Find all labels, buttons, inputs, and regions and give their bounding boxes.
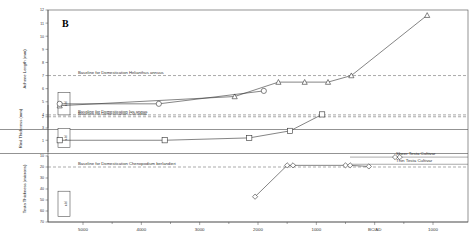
data-point-square bbox=[162, 138, 167, 143]
y-tick-label: 9 bbox=[42, 48, 44, 52]
figure-container: B3456789101112Achene Length (mm)Baseline… bbox=[0, 0, 473, 249]
x-tick-label: 1000 bbox=[311, 227, 321, 232]
data-point-circle bbox=[57, 101, 62, 106]
y-tick-label: 1 bbox=[42, 139, 44, 143]
data-point-square bbox=[57, 138, 62, 143]
x-tick-label: BC/AD bbox=[368, 227, 381, 232]
reference-line-label: Baseline for Domestication Chenopodium b… bbox=[78, 161, 176, 166]
panel-letter: B bbox=[62, 18, 69, 29]
data-point-square bbox=[320, 112, 325, 117]
y-tick-label: 40 bbox=[40, 187, 44, 191]
data-point-triangle bbox=[425, 13, 430, 18]
y-tick-label: 60 bbox=[40, 209, 44, 213]
y-tick-label: 20 bbox=[40, 165, 44, 169]
data-point-circle bbox=[261, 88, 266, 93]
reference-line-label: Baseline for Domestication Cucurbita bbox=[78, 111, 148, 116]
y-tick-label: 8 bbox=[42, 61, 44, 65]
reference-line-label: Thin Testa Cultivar bbox=[396, 158, 433, 163]
series-line bbox=[60, 114, 323, 140]
y-tick-label: 30 bbox=[40, 176, 44, 180]
y-axis-title: Rind Thickness (mm) bbox=[18, 108, 23, 148]
data-point-square bbox=[287, 128, 292, 133]
y-tick-label: 70 bbox=[40, 220, 44, 224]
x-tick-label: 3000 bbox=[195, 227, 205, 232]
data-point-diamond bbox=[366, 164, 371, 169]
y-tick-label: 5 bbox=[42, 100, 44, 104]
data-point-square bbox=[247, 135, 252, 140]
series-line bbox=[60, 15, 428, 105]
y-tick-label: 7 bbox=[42, 74, 44, 78]
x-tick-label: 1000 bbox=[428, 227, 438, 232]
data-point-circle bbox=[156, 101, 161, 106]
x-tick-label: 5000 bbox=[78, 227, 88, 232]
y-tick-label: 50 bbox=[40, 198, 44, 202]
chart-canvas: B3456789101112Achene Length (mm)Baseline… bbox=[0, 0, 473, 249]
x-tick-label: 2000 bbox=[253, 227, 263, 232]
plot-frame bbox=[48, 10, 468, 222]
y-tick-label: 10 bbox=[40, 35, 44, 39]
y-tick-label: 10 bbox=[40, 154, 44, 158]
wild-range-label: wild bbox=[64, 201, 68, 206]
y-tick-label: 2 bbox=[42, 115, 44, 119]
y-tick-label: 11 bbox=[40, 22, 44, 26]
reference-line-label: Baseline for Domestication Helianthus an… bbox=[78, 70, 164, 75]
y-tick-label: 12 bbox=[40, 8, 44, 12]
wild-range-box bbox=[58, 191, 70, 216]
wild-range-label: wild bbox=[64, 135, 68, 140]
y-tick-label: 3 bbox=[42, 126, 44, 130]
x-tick-label: 4000 bbox=[136, 227, 146, 232]
series-line bbox=[255, 165, 369, 196]
reference-line-label: Sheer Testa Cultivar bbox=[396, 151, 436, 156]
y-tick-label: 6 bbox=[42, 87, 44, 91]
y-axis-title: Testa Thickness (microns) bbox=[22, 164, 27, 213]
y-axis-title: Achene Length (mm) bbox=[22, 49, 27, 89]
